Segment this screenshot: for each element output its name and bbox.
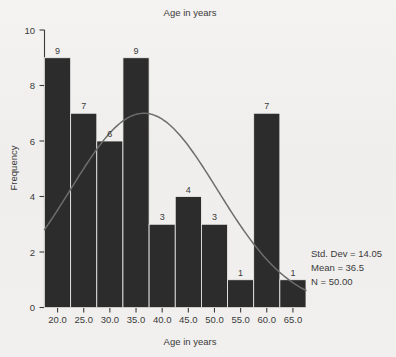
bar-value-label: 6 [107,129,112,139]
chart-title: Age in years [164,7,217,18]
sample-size-text: N = 50.00 [311,276,352,287]
std-dev-text: Std. Dev = 14.05 [311,248,382,259]
histogram-bar [149,224,175,307]
x-tick-label: 20.0 [48,314,67,325]
y-tick-label: 10 [24,25,35,36]
bar-value-label: 7 [264,101,269,111]
x-tick-label: 60.0 [258,314,277,325]
statistics-annotation: Std. Dev = 14.05 Mean = 36.5 N = 50.00 [311,248,382,287]
y-tick-label: 8 [30,80,35,91]
histogram-bar [228,280,254,308]
bar-value-label: 7 [81,101,86,111]
bar-value-label: 9 [134,46,139,56]
histogram-bar [45,58,71,308]
bar-value-label: 4 [186,185,191,195]
x-tick-label: 40.0 [153,314,172,325]
bars-group [45,58,307,308]
y-tick-label: 4 [30,191,35,202]
histogram-bar [254,113,280,307]
y-tick-label: 6 [30,136,35,147]
x-tick-label: 55.0 [231,314,250,325]
x-tick-label: 35.0 [127,314,146,325]
histogram-bar [175,197,201,308]
x-tick-label: 65.0 [284,314,303,325]
x-axis-title: Age in years [164,336,217,347]
y-tick-label: 2 [30,247,35,258]
x-tick-label: 50.0 [205,314,224,325]
histogram-bar [71,113,97,307]
y-tick-label: 0 [30,302,35,313]
bar-value-label: 3 [212,212,217,222]
histogram-bar [201,224,227,307]
histogram-bar [123,58,149,308]
bar-value-label: 9 [55,46,60,56]
histogram-bar [97,141,123,308]
bar-value-label: 1 [238,268,243,278]
mean-text: Mean = 36.5 [311,262,364,273]
bar-value-label: 1 [290,268,295,278]
histogram-figure: Age in years 0246810 20.025.030.035.040.… [0,0,396,357]
x-axis-ticks: 20.025.030.035.040.045.050.055.060.065.0 [48,308,302,326]
y-axis-title: Frequency [8,145,19,190]
bar-value-label: 3 [160,212,165,222]
chart-canvas: Age in years 0246810 20.025.030.035.040.… [0,0,396,357]
x-tick-label: 25.0 [74,314,93,325]
x-tick-label: 45.0 [179,314,198,325]
histogram-bar [280,280,306,308]
y-axis-ticks: 0246810 [24,25,44,314]
x-tick-label: 30.0 [101,314,120,325]
